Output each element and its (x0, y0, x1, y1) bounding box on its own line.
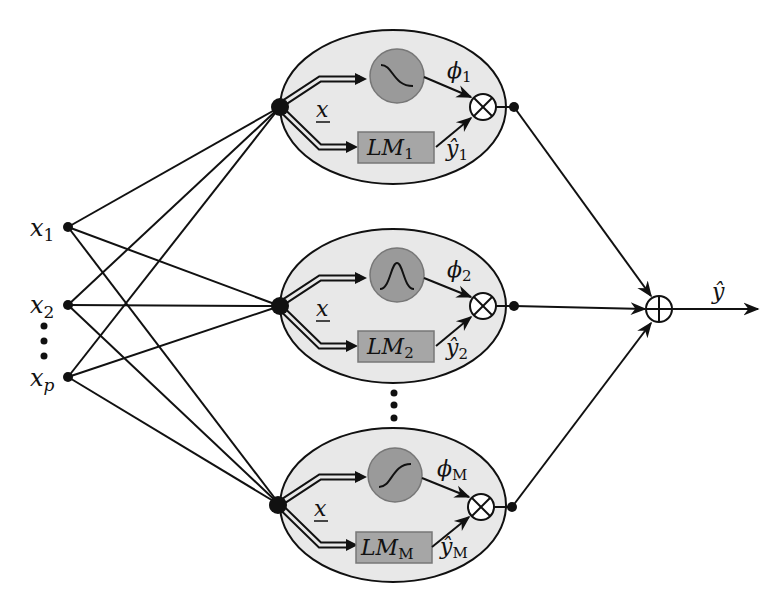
output-connections (512, 107, 651, 507)
input-ellipsis-dot (41, 338, 48, 345)
multiply-node-1 (470, 94, 496, 120)
x-vector-label: x (316, 97, 329, 122)
activation-function-1 (370, 49, 424, 103)
activation-function-M (368, 448, 422, 502)
multiply-node-M (468, 494, 494, 520)
output-label: ŷ (711, 279, 725, 304)
input-label-p: xp (30, 364, 55, 395)
input-ellipsis-dot (41, 353, 48, 360)
neuron-input-node (269, 496, 287, 514)
sum-node (646, 296, 672, 322)
input-node-p (63, 372, 73, 382)
activation-function-2 (370, 248, 424, 302)
neuron-M: LMM ϕM ŷM x (269, 428, 517, 582)
neuron-input-node (271, 98, 289, 116)
neuron-input-node (271, 297, 289, 315)
input-connections (68, 107, 280, 505)
neuron-2: LM2 ϕ2 ŷ2 x (271, 229, 519, 383)
input-label-1: x1 (30, 214, 54, 245)
input-node-2 (63, 300, 73, 310)
neuron-ellipsis (391, 390, 398, 422)
input-node-1 (63, 222, 73, 232)
lmn-diagram: x1 x2 xp LM1 ϕ1 ŷ1 x (0, 0, 778, 610)
neuron-1: LM1 ϕ1 ŷ1 x (271, 30, 519, 184)
input-ellipsis-dot (41, 323, 48, 330)
multiply-node-2 (470, 293, 496, 319)
input-label-2: x2 (30, 291, 54, 322)
x-vector-label: x (316, 296, 329, 321)
x-vector-label: x (314, 496, 327, 521)
